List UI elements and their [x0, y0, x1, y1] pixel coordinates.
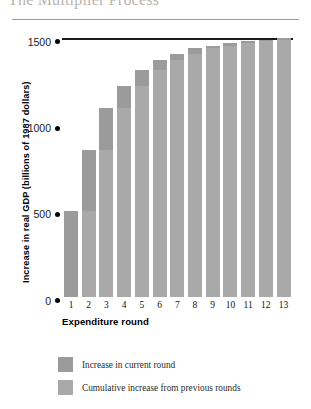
- bar-round-13: [277, 38, 291, 297]
- bar-round-4: [117, 86, 131, 297]
- y-axis-tick-0: 0: [0, 291, 62, 309]
- legend-item: Cumulative increase from previous rounds: [58, 380, 241, 395]
- bar-round-1: [64, 211, 78, 297]
- bar-segment-cumulative-previous: [135, 86, 149, 297]
- bar-segment-current-round: [64, 211, 78, 297]
- bar-segment-cumulative-previous: [170, 60, 184, 297]
- bar-segment-current-round: [170, 54, 184, 61]
- bar-segment-cumulative-previous: [259, 41, 273, 297]
- bar-round-5: [135, 70, 149, 297]
- y-axis-tick-label: 500: [33, 208, 51, 220]
- y-axis-tick-marker: [55, 39, 60, 44]
- bar-round-9: [206, 46, 220, 297]
- x-axis-tick-label-4: 4: [117, 300, 131, 310]
- y-axis-tick-label: 1500: [28, 36, 51, 48]
- bar-round-3: [99, 108, 113, 297]
- legend-label: Increase in current round: [82, 360, 175, 370]
- x-axis-tick-label-11: 11: [241, 300, 255, 310]
- x-axis-tick-label-1: 1: [64, 300, 78, 310]
- bar-segment-cumulative-previous: [117, 108, 131, 297]
- bar-segment-cumulative-previous: [277, 40, 291, 297]
- bar-segment-current-round: [99, 108, 113, 150]
- bar-segment-cumulative-previous: [223, 46, 237, 297]
- x-axis-ticks: 12345678910111213: [62, 300, 293, 314]
- x-axis-tick-label-13: 13: [277, 300, 291, 310]
- bar-segment-cumulative-previous: [82, 211, 96, 297]
- chart-plot-area: 050010001500 Increase in real GDP (billi…: [0, 0, 311, 409]
- y-axis-tick-marker: [55, 298, 60, 303]
- legend-swatch: [58, 380, 73, 395]
- bar-round-8: [188, 48, 202, 297]
- x-axis-label: Expenditure round: [62, 316, 293, 327]
- x-axis-tick-label-9: 9: [206, 300, 220, 310]
- y-axis-tick-label: 0: [45, 295, 51, 307]
- x-axis-tick-label-3: 3: [99, 300, 113, 310]
- bar-round-11: [241, 41, 255, 297]
- chart-legend: Increase in current roundCumulative incr…: [58, 357, 241, 403]
- y-axis-tick-500: 500: [0, 205, 62, 223]
- x-axis-tick-label-6: 6: [153, 300, 167, 310]
- bar-segment-cumulative-previous: [153, 70, 167, 297]
- x-axis-tick-label-12: 12: [259, 300, 273, 310]
- bar-segment-current-round: [117, 86, 131, 108]
- legend-item: Increase in current round: [58, 357, 241, 372]
- bar-segment-cumulative-previous: [241, 43, 255, 297]
- bar-round-2: [82, 150, 96, 297]
- bar-segment-current-round: [153, 60, 167, 69]
- y-axis-label: Increase in real GDP (billions of 1987 d…: [21, 83, 31, 283]
- x-axis-tick-label-2: 2: [82, 300, 96, 310]
- bar-segment-current-round: [82, 150, 96, 210]
- bar-segment-cumulative-previous: [206, 48, 220, 297]
- x-axis-tick-label-7: 7: [170, 300, 184, 310]
- bar-round-7: [170, 54, 184, 297]
- bar-round-6: [153, 60, 167, 297]
- bar-segment-current-round: [135, 70, 149, 86]
- bar-round-10: [223, 43, 237, 297]
- y-axis-tick-label: 1000: [28, 122, 51, 134]
- legend-label: Cumulative increase from previous rounds: [82, 383, 241, 393]
- y-axis-tick-1000: 1000: [0, 118, 62, 136]
- figure-multiplier-process: The Multiplier Process 050010001500 Incr…: [0, 0, 311, 409]
- x-axis-tick-label-8: 8: [188, 300, 202, 310]
- y-axis-tick-marker: [55, 212, 60, 217]
- bar-round-12: [259, 40, 273, 297]
- bar-segment-cumulative-previous: [188, 54, 202, 297]
- y-axis-tick-marker: [55, 126, 60, 131]
- x-axis-tick-label-5: 5: [135, 300, 149, 310]
- bar-segment-cumulative-previous: [99, 150, 113, 297]
- x-axis-tick-label-10: 10: [223, 300, 237, 310]
- y-axis-tick-1500: 1500: [0, 32, 62, 50]
- legend-swatch: [58, 357, 73, 372]
- bar-group: [62, 38, 293, 297]
